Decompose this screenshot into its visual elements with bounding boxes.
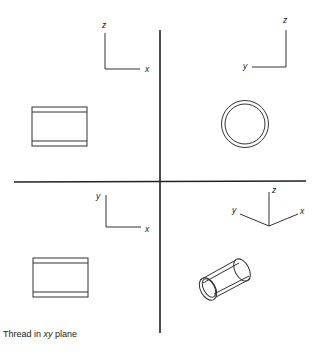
thread-rectangle <box>32 107 87 146</box>
caption-suffix: plane <box>53 329 78 339</box>
axis-label-z: z <box>101 20 107 30</box>
horizontal-divider <box>14 181 306 182</box>
caption-plane: xy <box>44 329 53 339</box>
thread-rectangle <box>33 258 88 297</box>
axis-label-y: y <box>242 61 248 71</box>
axis-label-z: z <box>271 185 277 195</box>
thread-cylinder <box>196 256 254 303</box>
isometric-view: z y x <box>196 185 305 303</box>
caption-prefix: Thread in <box>3 329 44 339</box>
isometric-axes: z y x <box>231 185 305 226</box>
front-view: z x <box>32 20 150 146</box>
axis-label-y: y <box>95 191 101 201</box>
axis-label-x: x <box>144 64 150 74</box>
axis-label-z: z <box>282 15 288 25</box>
figure-caption: Thread in xy plane <box>3 329 77 339</box>
front-view-axes: z x <box>101 20 150 74</box>
thread-circle <box>222 101 269 148</box>
orthographic-diagram: z x z y y x <box>0 0 317 354</box>
axis-label-x: x <box>144 224 150 234</box>
axis-label-y: y <box>231 205 237 215</box>
top-view: y x <box>33 191 150 297</box>
side-view-axes: z y <box>242 15 288 71</box>
axis-label-x: x <box>299 206 305 216</box>
top-view-axes: y x <box>95 191 150 234</box>
side-view: z y <box>222 15 289 148</box>
